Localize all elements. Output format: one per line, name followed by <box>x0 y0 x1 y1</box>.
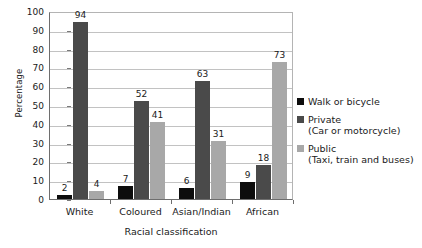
legend-sublabel: (Car or motorcycle) <box>308 125 422 136</box>
legend-swatch-icon <box>297 116 304 123</box>
legend-label: Walk or bicycle <box>308 96 380 107</box>
x-tick-mark <box>293 200 294 204</box>
legend-item[interactable]: Private(Car or motorcycle) <box>297 114 422 136</box>
legend-label: Private <box>308 114 341 125</box>
x-axis-title: Racial classification <box>49 226 293 237</box>
legend-swatch-icon <box>297 98 304 105</box>
legend-item[interactable]: Public(Taxi, train and buses) <box>297 143 422 165</box>
x-tick-mark <box>232 200 233 204</box>
x-tick-mark <box>110 200 111 204</box>
x-category-label: African <box>222 206 303 217</box>
bar-chart-figure: Percentage 0102030405060708090100 294475… <box>0 0 422 248</box>
legend-label: Public <box>308 143 336 154</box>
legend-sublabel: (Taxi, train and buses) <box>308 154 422 165</box>
legend-item[interactable]: Walk or bicycle <box>297 96 422 107</box>
legend: Walk or bicyclePrivate(Car or motorcycle… <box>297 96 422 172</box>
x-tick-mark <box>171 200 172 204</box>
legend-swatch-icon <box>297 145 304 152</box>
